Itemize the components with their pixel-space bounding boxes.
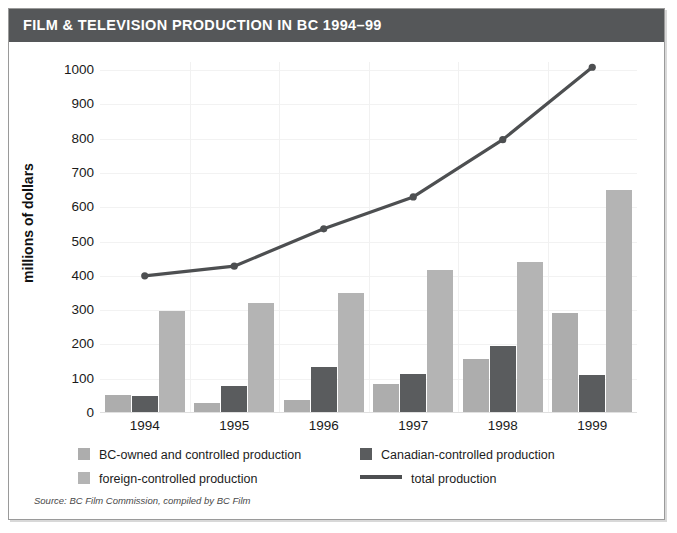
legend-line-marker: [360, 475, 402, 479]
y-axis-label: millions of dollars: [20, 133, 36, 313]
y-tick-label: 500: [54, 235, 94, 249]
x-tick-label: 1994: [100, 418, 190, 433]
total-production-marker: [231, 263, 238, 270]
legend-item: total production: [360, 472, 496, 486]
x-tick-label: 1998: [458, 418, 548, 433]
legend-label: total production: [411, 472, 496, 486]
legend-item: Canadian-controlled production: [360, 448, 555, 462]
legend-label: BC-owned and controlled production: [99, 448, 301, 462]
total-production-marker: [499, 136, 506, 143]
y-tick-label: 100: [54, 372, 94, 386]
legend-label: Canadian-controlled production: [381, 448, 555, 462]
legend-swatch: [360, 448, 372, 460]
total-production-marker: [589, 64, 596, 71]
chart-figure: FILM & TELEVISION PRODUCTION IN BC 1994–…: [0, 0, 677, 533]
title-banner: FILM & TELEVISION PRODUCTION IN BC 1994–…: [9, 9, 664, 42]
y-tick-label: 0: [54, 406, 94, 420]
total-production-line: [100, 62, 637, 413]
total-production-marker: [320, 225, 327, 232]
total-production-polyline: [145, 67, 593, 276]
x-axis-line: [100, 412, 637, 413]
y-tick-label: 700: [54, 166, 94, 180]
chart-legend: BC-owned and controlled productionCanadi…: [78, 448, 638, 494]
y-tick-label: 1000: [54, 63, 94, 77]
total-production-marker: [410, 193, 417, 200]
y-tick-label: 400: [54, 269, 94, 283]
y-tick-label: 600: [54, 200, 94, 214]
y-tick-label: 200: [54, 337, 94, 351]
legend-swatch: [78, 472, 90, 484]
legend-label: foreign-controlled production: [99, 472, 257, 486]
legend-swatch: [78, 448, 90, 460]
x-tick-label: 1995: [189, 418, 279, 433]
legend-item: BC-owned and controlled production: [78, 448, 301, 462]
chart-title: FILM & TELEVISION PRODUCTION IN BC 1994–…: [23, 17, 382, 33]
x-tick-label: 1999: [547, 418, 637, 433]
y-tick-label: 300: [54, 303, 94, 317]
x-tick-label: 1996: [279, 418, 369, 433]
y-tick-label: 800: [54, 132, 94, 146]
y-tick-label: 900: [54, 97, 94, 111]
y-axis-ticks: 01002003004005006007008009001000: [50, 62, 94, 413]
legend-item: foreign-controlled production: [78, 472, 257, 486]
plot-area: [100, 62, 637, 413]
x-tick-label: 1997: [368, 418, 458, 433]
source-note: Source: BC Film Commission, compiled by …: [34, 495, 250, 506]
total-production-marker: [141, 272, 148, 279]
